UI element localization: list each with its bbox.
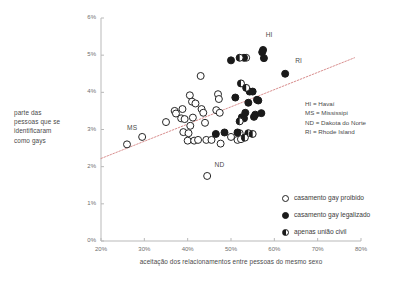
data-point-open — [204, 172, 211, 179]
x-tick-label: 50% — [218, 246, 244, 252]
data-point-open — [195, 136, 202, 143]
data-point-filled — [255, 97, 262, 104]
data-point-open — [197, 72, 204, 79]
data-point-open — [215, 96, 222, 103]
plot-area — [0, 0, 403, 283]
data-point-half — [236, 54, 243, 61]
x-tick-label: 70% — [305, 246, 331, 252]
data-point-open — [181, 116, 188, 123]
data-point-filled — [258, 110, 265, 117]
data-point-open — [179, 106, 186, 113]
x-tick-label: 20% — [88, 246, 114, 252]
data-point-filled — [260, 46, 267, 53]
trend-line — [101, 58, 355, 159]
data-point-open — [184, 137, 191, 144]
data-point-open — [185, 130, 192, 137]
data-point-filled — [245, 99, 252, 106]
data-point-open — [202, 119, 209, 126]
scatter-chart-figure: parte das pessoas que se identificaram c… — [0, 0, 403, 283]
x-tick-label: 60% — [261, 246, 287, 252]
data-point-open — [192, 100, 199, 107]
y-tick-label: 4% — [78, 88, 96, 94]
data-point-open — [163, 119, 170, 126]
data-point-filled — [260, 55, 267, 62]
y-tick-label: 1% — [78, 200, 96, 206]
point-annotation: HI — [266, 31, 273, 38]
x-tick-label: 80% — [348, 246, 374, 252]
y-tick-label: 6% — [78, 14, 96, 20]
data-point-open — [187, 122, 194, 129]
data-point-open — [189, 114, 196, 121]
point-annotation: RI — [295, 57, 302, 64]
data-point-open — [200, 109, 207, 116]
data-point-filled — [228, 57, 235, 64]
data-point-filled — [232, 94, 239, 101]
data-point-filled — [234, 129, 241, 136]
data-point-open — [216, 109, 223, 116]
data-point-open — [228, 133, 235, 140]
data-point-open — [124, 141, 131, 148]
data-point-open — [217, 140, 224, 147]
y-tick-label: 0% — [78, 237, 96, 243]
data-point-half — [236, 118, 243, 125]
x-tick-label: 40% — [175, 246, 201, 252]
data-point-half — [249, 130, 256, 137]
data-point-half — [243, 84, 250, 91]
data-point-filled — [242, 109, 249, 116]
y-tick-label: 3% — [78, 126, 96, 132]
y-tick-label: 5% — [78, 51, 96, 57]
data-point-filled — [282, 70, 289, 77]
x-tick-label: 30% — [131, 246, 157, 252]
data-point-filled — [249, 88, 256, 95]
point-annotation: MS — [127, 124, 137, 131]
y-tick-label: 2% — [78, 163, 96, 169]
point-annotation: ND — [215, 161, 225, 168]
data-point-filled — [212, 130, 219, 137]
data-point-filled — [221, 129, 228, 136]
data-point-open — [139, 133, 146, 140]
data-point-half — [241, 134, 248, 141]
